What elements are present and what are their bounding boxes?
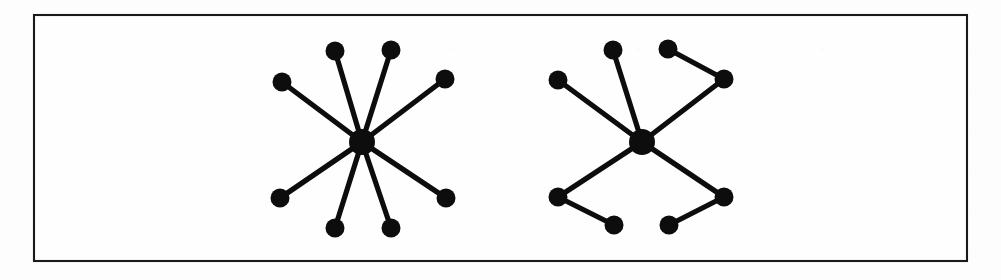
figure-root — [0, 0, 1001, 280]
graph-hub-node — [629, 129, 655, 155]
graph-leaf-node — [437, 189, 456, 208]
graph-leaf-node — [382, 219, 401, 238]
graph-leaf-node — [326, 219, 345, 238]
graph-leaf-node — [659, 40, 678, 59]
figure-border-frame — [34, 15, 967, 261]
graph-leaf-node — [273, 73, 292, 92]
graph-leaf-node — [715, 70, 734, 89]
graph-leaf-node — [382, 41, 401, 60]
graph-leaf-node — [604, 41, 623, 60]
graph-leaf-node — [326, 42, 345, 61]
graph-leaf-node — [660, 216, 679, 235]
graph-leaf-node — [271, 189, 290, 208]
graph-leaf-node — [715, 188, 734, 207]
graph-leaf-node — [605, 216, 624, 235]
graph-leaf-node — [549, 188, 568, 207]
graph-hub-node — [349, 129, 375, 155]
graph-leaf-node — [549, 71, 568, 90]
graph-figure-canvas — [0, 0, 1001, 280]
graph-leaf-node — [436, 70, 455, 89]
